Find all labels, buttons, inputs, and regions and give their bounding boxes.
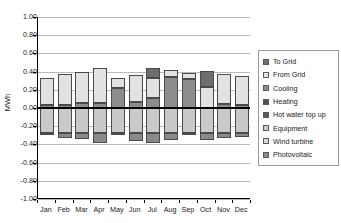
bar-segment bbox=[93, 133, 107, 143]
x-axis-tick-mark bbox=[55, 200, 56, 203]
bar-segment bbox=[200, 133, 214, 139]
bar-segment bbox=[217, 133, 231, 138]
x-axis-tick-mark bbox=[73, 200, 74, 203]
legend-item-label: Photovoltaic bbox=[273, 150, 312, 159]
legend-item[interactable]: To Grid bbox=[263, 55, 335, 68]
x-axis-tick-mark bbox=[179, 200, 180, 203]
legend-swatch-icon bbox=[263, 125, 269, 131]
bar-segment bbox=[129, 108, 143, 133]
legend-swatch-icon bbox=[263, 112, 269, 118]
bar-segment bbox=[146, 68, 160, 78]
legend-item[interactable]: Wind turbine bbox=[263, 135, 335, 148]
bar-segment bbox=[182, 73, 196, 79]
bar-segment bbox=[40, 133, 54, 135]
bar-segment bbox=[40, 108, 54, 133]
x-axis-tick-mark bbox=[161, 200, 162, 203]
bar-segment bbox=[182, 133, 196, 135]
x-axis-tick-label: Apr bbox=[90, 200, 108, 222]
x-axis-tick-label: Dec bbox=[232, 200, 250, 222]
bar-segment bbox=[129, 75, 143, 101]
bar-segment bbox=[164, 70, 178, 77]
legend-item[interactable]: From Grid bbox=[263, 68, 335, 81]
y-axis-tick-mark bbox=[33, 35, 36, 36]
legend-swatch-icon bbox=[263, 138, 269, 144]
legend-item-label: Equipment bbox=[273, 124, 307, 133]
bar-segment bbox=[111, 78, 125, 88]
bar-segment bbox=[75, 72, 89, 104]
bar-segment bbox=[146, 78, 160, 98]
x-axis-tick-mark bbox=[108, 200, 109, 203]
bar-segment bbox=[200, 108, 214, 133]
legend-swatch-icon bbox=[263, 59, 269, 65]
x-axis-tick-mark bbox=[215, 200, 216, 203]
bar-segment bbox=[93, 68, 107, 103]
legend-item[interactable]: Photovoltaic bbox=[263, 148, 335, 161]
y-axis-tick-mark bbox=[33, 163, 36, 164]
bar-segment bbox=[146, 133, 160, 143]
y-axis-tick-mark bbox=[33, 126, 36, 127]
bar-segment bbox=[111, 108, 125, 133]
y-axis-tick-mark bbox=[33, 72, 36, 73]
y-axis-tick-mark bbox=[33, 199, 36, 200]
bar-segment bbox=[40, 78, 54, 105]
bar-segment bbox=[111, 88, 125, 108]
legend-item[interactable]: Equipment bbox=[263, 121, 335, 134]
legend-item-label: From Grid bbox=[273, 70, 305, 79]
y-axis-tick-mark bbox=[33, 90, 36, 91]
bar-segment bbox=[164, 108, 178, 133]
chart-root: MWh 1.000.800.600.400.200.00-0.20-0.40-0… bbox=[0, 0, 341, 223]
bar-segment bbox=[182, 108, 196, 133]
legend-swatch-icon bbox=[263, 152, 269, 158]
y-axis-tick-mark bbox=[33, 181, 36, 182]
legend-item-label: To Grid bbox=[273, 57, 296, 66]
bar-segment bbox=[235, 108, 249, 133]
y-axis-tick-mark bbox=[33, 53, 36, 54]
bar-segment bbox=[200, 87, 214, 108]
x-axis-tick-mark bbox=[37, 200, 38, 203]
y-axis-tick-mark bbox=[33, 108, 36, 109]
bar-segment bbox=[93, 108, 107, 133]
y-axis-tick-mark bbox=[33, 17, 36, 18]
legend-item[interactable]: Heating bbox=[263, 95, 335, 108]
legend-swatch-icon bbox=[263, 99, 269, 105]
bar-segment bbox=[217, 74, 231, 104]
bar-segment bbox=[58, 108, 72, 133]
x-axis-tick-label: Mar bbox=[73, 200, 91, 222]
bar-segment bbox=[217, 108, 231, 133]
bar-segment bbox=[75, 108, 89, 133]
bar-segment bbox=[235, 76, 249, 105]
x-axis-tick-label: Sep bbox=[179, 200, 197, 222]
plot-area bbox=[37, 17, 250, 199]
x-axis-tick-label: Nov bbox=[215, 200, 233, 222]
bar-segment bbox=[146, 108, 160, 133]
bar-segment bbox=[75, 133, 89, 138]
x-axis-tick-label: Jul bbox=[144, 200, 162, 222]
x-axis-tick-mark bbox=[90, 200, 91, 203]
bar-segment bbox=[129, 133, 143, 140]
legend-item-label: Wind turbine bbox=[273, 137, 313, 146]
bar-segment bbox=[200, 71, 214, 87]
x-axis-tick-mark bbox=[197, 200, 198, 203]
legend-item-label: Hot water top up bbox=[273, 110, 326, 119]
legend-swatch-icon bbox=[263, 85, 269, 91]
legend-item[interactable]: Cooling bbox=[263, 82, 335, 95]
x-axis-tick-label: May bbox=[108, 200, 126, 222]
x-axis-tick-label: Jun bbox=[126, 200, 144, 222]
x-axis-tick-mark bbox=[250, 200, 251, 203]
y-axis-tick-mark bbox=[33, 144, 36, 145]
bar-segment bbox=[58, 133, 72, 138]
x-axis-tick-mark bbox=[144, 200, 145, 203]
bar-segment bbox=[58, 74, 72, 105]
x-axis: JanFebMarAprMayJunJulAugSepOctNovDec bbox=[37, 200, 250, 222]
x-axis-tick-label: Feb bbox=[55, 200, 73, 222]
x-axis-tick-mark bbox=[126, 200, 127, 203]
y-axis: MWh 1.000.800.600.400.200.00-0.20-0.40-0… bbox=[0, 0, 37, 223]
legend-item-label: Cooling bbox=[273, 84, 297, 93]
chart-legend: To GridFrom GridCoolingHeatingHot water … bbox=[258, 50, 339, 166]
legend-item[interactable]: Hot water top up bbox=[263, 108, 335, 121]
bar-segment bbox=[235, 133, 249, 137]
x-axis-tick-label: Jan bbox=[37, 200, 55, 222]
x-axis-tick-label: Aug bbox=[161, 200, 179, 222]
legend-swatch-icon bbox=[263, 72, 269, 78]
bar-segment bbox=[164, 77, 178, 108]
